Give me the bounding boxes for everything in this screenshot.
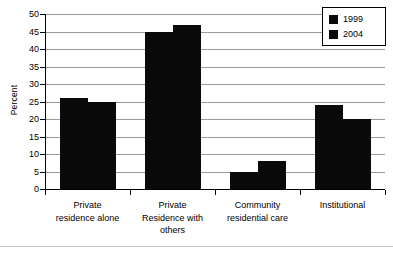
y-tick-mark xyxy=(40,84,45,85)
y-tick-label: 35 xyxy=(29,62,39,71)
legend-swatch-2004 xyxy=(329,30,338,39)
x-axis-category-labels: Privateresidence alonePrivateResidence w… xyxy=(45,199,385,251)
y-tick-label: 45 xyxy=(29,27,39,36)
legend-label-2004: 2004 xyxy=(343,30,363,39)
bar-2004-group-3 xyxy=(258,161,286,189)
y-tick-label: 5 xyxy=(34,167,39,176)
x-tick-mark xyxy=(300,190,301,195)
bar-2004-group-1 xyxy=(88,102,116,190)
bar-1999-group-3 xyxy=(230,172,258,190)
y-axis-tick-labels: 05101520253035404550 xyxy=(13,0,39,253)
y-tick-label: 25 xyxy=(29,97,39,106)
y-tick-label: 50 xyxy=(29,10,39,19)
y-tick-mark xyxy=(40,172,45,173)
y-tick-mark xyxy=(40,32,45,33)
legend-swatch-1999 xyxy=(329,15,338,24)
x-category-label-line: others xyxy=(122,224,223,237)
gridline xyxy=(45,84,385,85)
bar-1999-group-2 xyxy=(145,32,173,190)
y-tick-mark xyxy=(40,67,45,68)
chart-legend: 1999 2004 xyxy=(322,7,386,46)
y-tick-mark xyxy=(40,137,45,138)
x-tick-mark xyxy=(215,190,216,195)
bar-2004-group-2 xyxy=(173,25,201,190)
y-tick-mark xyxy=(40,154,45,155)
bar-1999-group-4 xyxy=(315,105,343,189)
bar-2004-group-4 xyxy=(343,119,371,189)
legend-item-2004: 2004 xyxy=(329,27,385,42)
gridline xyxy=(45,67,385,68)
gridline xyxy=(45,49,385,50)
y-tick-mark xyxy=(40,119,45,120)
bar-1999-group-1 xyxy=(60,98,88,189)
x-tick-mark xyxy=(45,190,46,195)
y-tick-label: 0 xyxy=(34,185,39,194)
y-tick-label: 15 xyxy=(29,132,39,141)
x-category-label-line: residential care xyxy=(207,212,308,225)
y-axis-line xyxy=(45,14,46,190)
y-tick-mark xyxy=(40,102,45,103)
legend-label-1999: 1999 xyxy=(343,15,363,24)
y-tick-label: 30 xyxy=(29,80,39,89)
y-tick-label: 20 xyxy=(29,115,39,124)
x-tick-mark xyxy=(130,190,131,195)
y-tick-mark xyxy=(40,14,45,15)
y-tick-label: 10 xyxy=(29,150,39,159)
x-tick-mark xyxy=(385,190,386,195)
legend-item-1999: 1999 xyxy=(329,12,385,27)
y-tick-label: 40 xyxy=(29,45,39,54)
y-tick-mark xyxy=(40,49,45,50)
x-category-label-line: Institutional xyxy=(292,199,393,212)
bar-chart-figure: Percent 05101520253035404550 Privateresi… xyxy=(0,0,393,253)
x-category-label: Institutional xyxy=(292,199,393,212)
